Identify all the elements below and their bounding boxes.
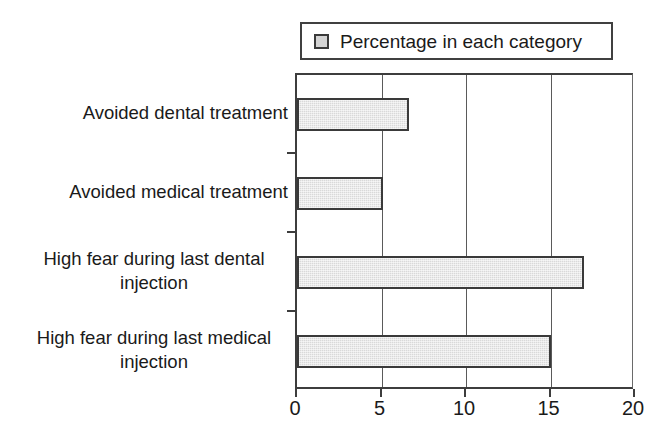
category-label-line: Avoided medical treatment [20,180,288,204]
legend-square-icon [314,34,329,49]
x-axis-tick-label: 20 [603,396,663,420]
bar [297,256,584,289]
bar [297,177,383,210]
x-axis-tick-label: 5 [350,396,410,420]
horizontal-bar-chart: Percentage in each category Avoided dent… [0,0,664,442]
category-label-line: Avoided dental treatment [20,101,288,125]
y-axis-tick [287,310,295,312]
plot-inner [297,75,632,387]
category-label-line: High fear during last dental [20,247,288,271]
chart-legend: Percentage in each category [300,22,613,60]
category-label-high-fear-dental-injection: High fear during last dentalinjection [20,247,288,295]
category-label-avoided-dental-treatment: Avoided dental treatment [20,101,288,125]
x-axis-tick-label: 15 [519,396,579,420]
bar [297,98,409,131]
y-axis-tick [287,152,295,154]
plot-area [295,73,633,389]
bar-band [297,154,632,233]
category-label-avoided-medical-treatment: Avoided medical treatment [20,180,288,204]
bar-band [297,233,632,312]
legend-label: Percentage in each category [340,32,582,51]
x-axis-tick-label: 0 [265,396,325,420]
category-label-line: High fear during last medical [20,326,288,350]
bar-band [297,312,632,391]
category-label-high-fear-medical-injection: High fear during last medicalinjection [20,326,288,374]
x-axis-tick-label: 10 [434,396,494,420]
bar [297,335,551,368]
category-label-line: injection [20,271,288,295]
y-axis-tick [287,231,295,233]
bar-band [297,75,632,154]
category-label-line: injection [20,350,288,374]
